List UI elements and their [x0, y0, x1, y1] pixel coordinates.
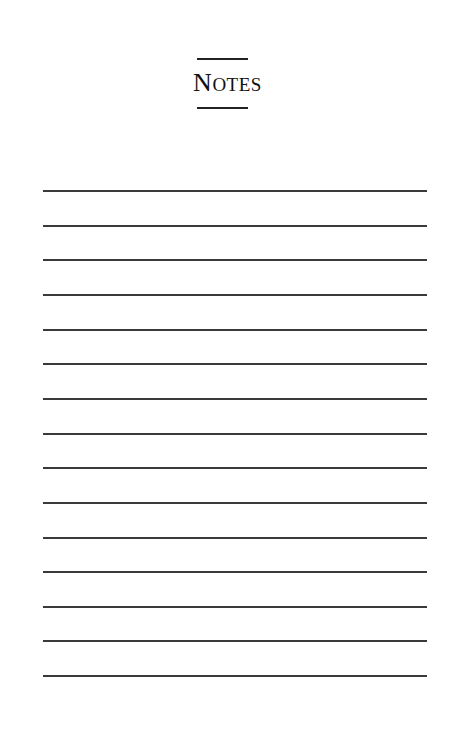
ruled-line	[43, 363, 427, 365]
ruled-line	[43, 294, 427, 296]
ruled-line	[43, 502, 427, 504]
page-title: NOTES	[0, 68, 455, 100]
ruled-line	[43, 259, 427, 261]
ruled-line	[43, 606, 427, 608]
title-rest: OTES	[212, 74, 262, 95]
title-initial: N	[193, 68, 212, 97]
title-rule-bottom	[197, 107, 248, 109]
ruled-line	[43, 433, 427, 435]
ruled-line	[43, 675, 427, 677]
ruled-line	[43, 537, 427, 539]
ruled-line	[43, 571, 427, 573]
title-rule-top	[197, 58, 248, 60]
ruled-line	[43, 190, 427, 192]
ruled-line	[43, 329, 427, 331]
ruled-line	[43, 467, 427, 469]
ruled-line	[43, 640, 427, 642]
ruled-line	[43, 398, 427, 400]
ruled-line	[43, 225, 427, 227]
